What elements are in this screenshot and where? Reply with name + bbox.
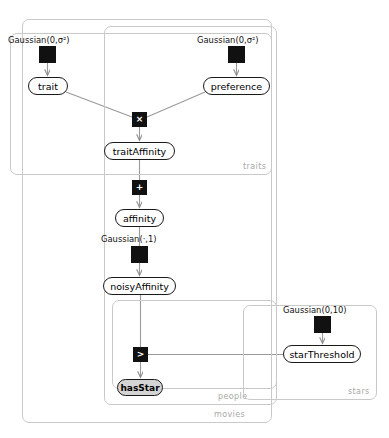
variable-node-affinity[interactable]: affinity <box>115 209 164 227</box>
factor-node-gaussian-noise[interactable] <box>131 246 148 263</box>
factor-node-greater-than[interactable]: > <box>133 347 148 362</box>
factor-node-gaussian-preference[interactable] <box>228 46 245 63</box>
variable-node-noisyaffinity[interactable]: noisyAffinity <box>103 277 176 295</box>
label-gaussian-noise: Gaussian(·,1) <box>101 234 157 244</box>
label-gaussian-preference: Gaussian(0,σ²) <box>197 35 259 45</box>
label-gaussian-threshold: Gaussian(0,10) <box>283 305 347 315</box>
factor-node-sum[interactable]: + <box>132 180 147 195</box>
variable-label-traitaffinity: traitAffinity <box>113 146 167 157</box>
plate-label-stars: stars <box>348 387 370 396</box>
variable-label-affinity: affinity <box>123 213 156 224</box>
product-symbol: × <box>136 115 144 124</box>
variable-label-preference: preference <box>211 81 262 92</box>
plate-label-movies: movies <box>214 410 245 419</box>
variable-label-trait: trait <box>38 81 58 92</box>
variable-label-hasstar: hasStar <box>120 383 159 393</box>
factor-graph-diagram: movies people traits stars Gaussian(0,σ²… <box>0 0 389 438</box>
variable-label-starthreshold: starThreshold <box>289 349 354 360</box>
greater-than-symbol: > <box>137 350 145 359</box>
variable-node-preference[interactable]: preference <box>203 77 270 95</box>
factor-node-gaussian-trait[interactable] <box>39 46 56 63</box>
sum-symbol: + <box>136 183 144 192</box>
variable-node-starthreshold[interactable]: starThreshold <box>283 345 361 363</box>
variable-label-noisyaffinity: noisyAffinity <box>110 281 169 292</box>
factor-node-product[interactable]: × <box>132 112 147 127</box>
plate-label-traits: traits <box>243 162 266 171</box>
variable-node-hasstar[interactable]: hasStar <box>117 379 163 396</box>
label-gaussian-trait: Gaussian(0,σ²) <box>8 35 70 45</box>
variable-node-trait[interactable]: trait <box>28 77 68 95</box>
variable-node-traitaffinity[interactable]: traitAffinity <box>104 142 175 160</box>
factor-node-gaussian-threshold[interactable] <box>314 316 331 333</box>
